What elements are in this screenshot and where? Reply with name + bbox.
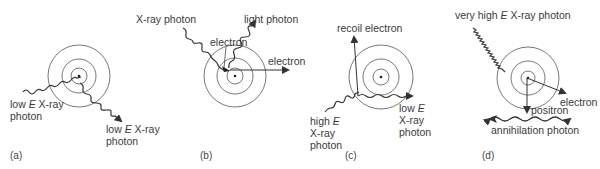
panel-a-outgoing-label: low E X-ray photon — [106, 123, 160, 147]
panel-c-tag: (c) — [345, 150, 357, 161]
panel-d-tag: (d) — [482, 150, 494, 161]
panel-b-ejected-electron-label: electron — [268, 55, 305, 67]
panel-d-annihilation-label: annihilation photon — [491, 124, 579, 136]
panel-d-annihilation-arrow-left — [488, 115, 497, 123]
panel-b-light-photon-label: light photon — [244, 13, 298, 25]
panel-c-outgoing-label: low E X-ray photon — [399, 102, 431, 138]
panel-c-recoil-electron-arrow — [354, 37, 358, 96]
panel-d-incoming-wave — [473, 28, 505, 72]
panel-b-inner-electron-label: electron — [210, 36, 247, 48]
panel-c-incoming-wave — [325, 92, 359, 112]
panel-a-tag: (a) — [10, 150, 22, 161]
panel-c-incoming-label: high E X-ray photon — [310, 115, 342, 151]
panel-d-incoming-label: very high E X-ray photon — [455, 9, 571, 21]
panel-a-incoming-label: low E X-ray photon — [10, 98, 64, 122]
panel-b-tag: (b) — [200, 150, 212, 161]
panel-b-xray-photon-label: X-ray photon — [136, 13, 196, 25]
panel-d-annihilation-wave — [490, 117, 570, 121]
panel-c-recoil-electron-label: recoil electron — [337, 22, 402, 34]
panel-a-outgoing-wave — [80, 83, 121, 121]
panel-b-electron-to-shell — [224, 47, 226, 68]
panel-b-nucleus — [234, 75, 237, 78]
panel-d-positron-label: positron — [531, 104, 568, 116]
diagram-canvas — [0, 0, 600, 169]
panel-c-nucleus — [380, 76, 383, 79]
